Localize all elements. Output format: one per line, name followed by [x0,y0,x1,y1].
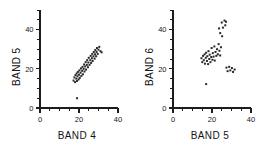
data-point [97,53,99,55]
y-tick-label: 40 [25,25,33,34]
data-point [96,51,98,53]
data-point [222,27,224,29]
data-point [213,56,215,58]
x-tick-label: 20 [208,115,216,124]
data-point [94,53,96,55]
data-point [232,71,234,73]
data-point [78,69,80,71]
data-point [209,54,211,56]
data-point [91,53,93,55]
y-tick-label: 40 [158,25,166,34]
data-point [214,60,216,62]
x-axis-title-band5: BAND 5 [169,130,230,141]
data-point [209,61,211,63]
x-tick-label: 0 [171,115,175,124]
data-point [74,81,76,83]
data-point [225,67,227,69]
chart-panel-band5-band6: 0204002040 BAND 6 BAND 5 [133,0,265,145]
data-point [206,55,208,57]
data-point [98,46,100,48]
data-point [205,83,207,85]
data-point [215,51,217,53]
data-point [207,63,209,65]
data-point [200,57,202,59]
data-point [92,60,94,62]
x-axis-title-wrap-band4: BAND 4 [0,130,132,141]
scatter-plot-figure: 0204002040 BAND 5 BAND 4 0204002040 BAND… [0,0,265,145]
data-point [79,77,81,79]
data-point [221,35,223,37]
data-point [201,61,203,63]
chart-panel-band4-band5: 0204002040 BAND 5 BAND 4 [0,0,132,145]
y-tick-label: 20 [25,65,33,74]
data-point [93,51,95,53]
x-tick-label: 40 [247,115,255,124]
data-point [220,46,222,48]
data-point [227,70,229,72]
data-point [219,32,221,34]
data-point [208,58,210,60]
data-point [92,55,94,57]
data-point [90,55,92,57]
data-point [219,54,221,56]
data-point [216,48,218,50]
data-point [82,66,84,68]
data-point [83,68,85,70]
data-point [76,97,78,99]
data-point [218,50,220,52]
data-point [78,74,80,76]
data-point [203,59,205,61]
x-axis-title-wrap-band5: BAND 5 [133,130,265,141]
data-point [89,64,91,66]
data-point [221,22,223,24]
data-point [101,51,103,53]
data-point [85,69,87,71]
data-point [212,52,214,54]
data-point [95,55,97,57]
data-point [86,64,88,66]
data-point [83,63,85,65]
y-tick-label: 20 [158,65,166,74]
data-point [211,47,213,49]
x-tick-label: 40 [114,115,122,124]
data-point [83,71,85,73]
data-point [91,57,93,59]
data-point [217,53,219,55]
axis-spine [40,10,118,108]
data-point [98,49,100,51]
data-point [206,60,208,62]
data-point [229,69,231,71]
data-point [218,43,220,45]
x-tick-label: 0 [38,115,42,124]
data-point [228,66,230,68]
data-point [94,58,96,60]
data-point [85,61,87,63]
data-point [88,57,90,59]
data-point [234,69,236,71]
data-point [80,72,82,74]
data-point [94,49,96,51]
data-point [205,52,207,54]
data-point [89,59,91,61]
y-tick-label: 0 [29,104,33,113]
data-point [90,62,92,64]
data-point [207,50,209,52]
data-point [213,45,215,47]
data-point [81,70,83,72]
data-point [82,73,84,75]
data-point [224,24,226,26]
data-point [211,59,213,61]
data-point [225,21,227,23]
data-point [210,56,212,58]
data-point [204,63,206,65]
data-point [75,78,77,80]
data-point [218,27,220,29]
data-point [87,62,89,64]
y-tick-label: 0 [162,104,166,113]
data-point [87,66,89,68]
data-point [73,76,75,78]
y-axis-title-band5: BAND 5 [11,47,22,86]
x-axis-title-band4: BAND 4 [36,130,97,141]
data-point [231,67,233,69]
x-tick-label: 20 [75,115,83,124]
